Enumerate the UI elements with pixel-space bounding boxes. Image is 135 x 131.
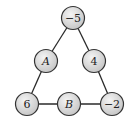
node-bottom-left: 6 <box>16 93 39 116</box>
node-B: B <box>58 93 81 116</box>
node-A: A <box>35 50 58 73</box>
node-label: −2 <box>104 98 120 111</box>
node-label: 4 <box>91 55 98 68</box>
node-label: B <box>64 98 73 111</box>
node-label: 6 <box>24 98 31 111</box>
node-right-mid: 4 <box>83 50 106 73</box>
node-label: A <box>41 55 50 68</box>
node-top: −5 <box>62 7 85 30</box>
node-label: −5 <box>65 12 81 25</box>
node-bottom-right: −2 <box>101 93 124 116</box>
nodes-group: −5A46B−2 <box>16 7 124 116</box>
diagram-svg: −5A46B−2 <box>0 0 135 131</box>
triangle-diagram: −5A46B−2 <box>0 0 135 131</box>
